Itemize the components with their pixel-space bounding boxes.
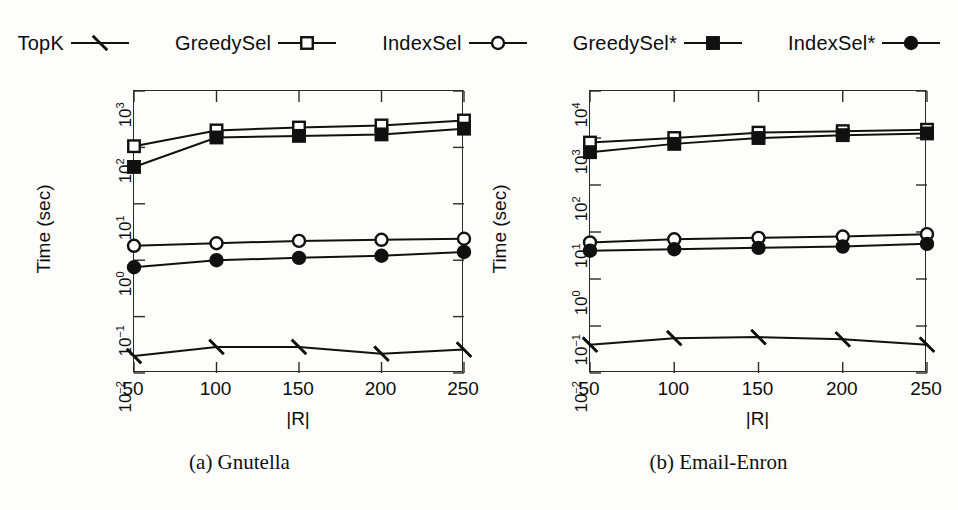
circle-filled-marker	[837, 241, 849, 253]
circle-open-marker	[211, 237, 223, 249]
circle-filled-marker	[293, 252, 305, 264]
chart-panel-gnutella: Time (sec) 10−210−1100101102103 50100150…	[0, 78, 479, 510]
panel-caption: (a) Gnutella	[0, 450, 479, 475]
square-filled-marker	[837, 129, 849, 141]
circle-filled-marker	[921, 238, 933, 250]
y-axis-label: Time (sec)	[489, 149, 511, 309]
circle-filled-marker	[584, 245, 596, 257]
legend-sample	[469, 33, 527, 53]
series-canvas	[590, 91, 927, 373]
square-filled-marker	[584, 146, 596, 158]
legend-label: TopK	[18, 32, 64, 55]
circle-open-marker	[487, 32, 509, 54]
square-open-marker	[296, 32, 318, 54]
square-filled-marker	[753, 132, 765, 144]
circle-open-marker	[376, 234, 388, 246]
circle-filled-marker	[753, 242, 765, 254]
square-filled-marker	[707, 37, 719, 49]
circle-filled-marker	[458, 246, 470, 258]
x-tick-label: 150	[742, 378, 774, 400]
square-filled-marker	[211, 132, 223, 144]
circle-open-marker	[458, 233, 470, 245]
x-axis-label: |R|	[133, 408, 463, 430]
x-tick-label: 200	[826, 378, 858, 400]
x-tick-label: 250	[910, 378, 942, 400]
legend-entry-greedysel[interactable]: GreedySel	[175, 32, 336, 55]
x-tick-label: 250	[447, 378, 479, 400]
series-canvas	[134, 91, 464, 373]
x-axis-label: |R|	[589, 408, 926, 430]
legend-sample	[71, 33, 129, 53]
y-axis-label: Time (sec)	[33, 149, 55, 309]
x-tick-label: 100	[657, 378, 689, 400]
cross-marker	[93, 36, 107, 50]
plot-area	[133, 90, 463, 372]
circle-filled-marker	[211, 254, 223, 266]
circle-filled-marker	[668, 243, 680, 255]
x-tick-label: 100	[200, 378, 232, 400]
legend-entry-indexsel[interactable]: IndexSel	[382, 32, 526, 55]
legend-label: IndexSel	[382, 32, 461, 55]
square-filled-marker	[128, 161, 140, 173]
x-tick-label: 50	[578, 378, 599, 400]
circle-open-marker	[293, 235, 305, 247]
x-tick-label: 50	[122, 378, 143, 400]
chart-panel-email-enron: Time (sec) 10−210−1100101102103104 50100…	[479, 78, 958, 510]
figure-root: TopKGreedySelIndexSelGreedySel*IndexSel*…	[0, 0, 958, 510]
circle-open-marker	[128, 240, 140, 252]
square-open-marker	[128, 140, 140, 152]
legend-label: GreedySel	[175, 32, 271, 55]
plot-area	[589, 90, 926, 372]
square-open-marker	[302, 37, 314, 49]
legend-entry-indexsel[interactable]: IndexSel*	[788, 32, 940, 55]
square-filled-marker	[458, 123, 470, 135]
chart-legend: TopKGreedySelIndexSelGreedySel*IndexSel*	[0, 22, 958, 64]
legend-entry-greedysel[interactable]: GreedySel*	[573, 32, 742, 55]
legend-sample	[684, 33, 742, 53]
square-filled-marker	[376, 129, 388, 141]
circle-filled-marker	[376, 250, 388, 262]
legend-sample	[278, 33, 336, 53]
legend-label: IndexSel*	[788, 32, 875, 55]
legend-entry-topk[interactable]: TopK	[18, 32, 129, 55]
circle-filled-marker	[905, 37, 917, 49]
square-filled-marker	[921, 128, 933, 139]
square-filled-marker	[293, 130, 305, 142]
x-tick-label: 150	[282, 378, 314, 400]
panel-caption: (b) Email-Enron	[479, 450, 958, 475]
x-tick-label: 200	[365, 378, 397, 400]
square-filled-marker	[702, 32, 724, 54]
cross-marker	[89, 32, 111, 54]
square-filled-marker	[669, 138, 681, 150]
circle-filled-marker	[128, 261, 140, 273]
legend-sample	[882, 33, 940, 53]
legend-label: GreedySel*	[573, 32, 677, 55]
circle-filled-marker	[900, 32, 922, 54]
circle-open-marker	[492, 37, 504, 49]
